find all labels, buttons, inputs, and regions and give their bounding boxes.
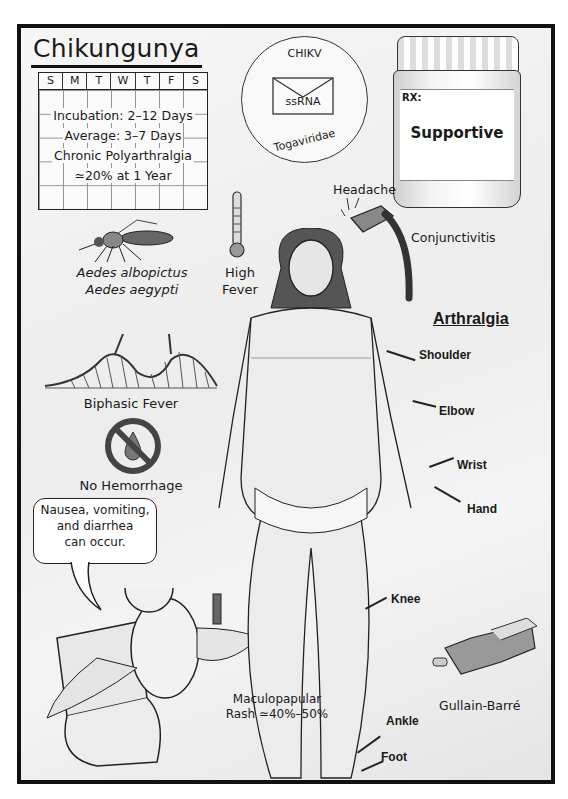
jar-body: RX: Supportive [393, 70, 521, 208]
weekday: S [184, 73, 207, 89]
joint-ankle: Ankle [386, 714, 419, 728]
calendar-facts: Incubation: 2–12 Days Average: 3–7 Days … [39, 106, 207, 186]
virus-family: Togaviridae [242, 119, 366, 162]
page-title: Chikungunya [31, 34, 202, 68]
chronic-text: Chronic Polyarthralgia [52, 148, 194, 163]
virus-name: CHIKV [242, 47, 367, 60]
biphasic-fever-icon [41, 334, 221, 394]
jar-label: RX: Supportive [400, 89, 514, 181]
headache-label: Headache [333, 182, 396, 197]
virus-circle: CHIKV ssRNA Togaviridae [241, 36, 368, 163]
average-text: Average: 3–7 Days [63, 128, 184, 143]
weekday: M [63, 73, 87, 89]
rash-label: Maculopapular Rash ≃40%–50% [217, 692, 337, 722]
calendar-weekdays: S M T W T F S [39, 73, 207, 90]
weekday: W [111, 73, 135, 89]
joint-wrist: Wrist [457, 458, 487, 472]
jar-lid [397, 36, 519, 74]
gi-speech-bubble: Nausea, vomiting, and diarrhea can occur… [33, 498, 157, 564]
biphasic-fever-label: Biphasic Fever [71, 396, 191, 411]
medicine-jar: RX: Supportive [393, 36, 521, 206]
vector-species: Aedes albopictus Aedes aegypti [67, 264, 197, 298]
hand-leader [434, 486, 461, 502]
joint-foot: Foot [381, 750, 407, 764]
incubation-calendar: S M T W T F S Incubation: 2–12 Days Aver… [38, 72, 208, 210]
joint-hand: Hand [467, 502, 497, 516]
wrist-leader [429, 457, 454, 467]
treatment-label: Supportive [400, 124, 514, 142]
joint-knee: Knee [391, 592, 420, 606]
no-hemorrhage-label: No Hemorrhage [61, 478, 201, 493]
demyelinated-nerve-icon [431, 618, 541, 688]
weekday: F [160, 73, 184, 89]
rx-label: RX: [402, 92, 421, 103]
illustration-frame: Chikungunya S M T W T F S Incubation: 2–… [17, 24, 555, 784]
arthralgia-heading: Arthralgia [433, 310, 509, 328]
gbs-label: Gullain-Barré [439, 698, 520, 713]
weekday: T [87, 73, 111, 89]
chronic-rate-text: ≃20% at 1 Year [72, 168, 173, 183]
no-blood-icon [103, 416, 163, 476]
genome-type: ssRNA [272, 95, 334, 108]
weekday: T [136, 73, 160, 89]
weekday: S [39, 73, 63, 89]
conjunctivitis-label: Conjunctivitis [411, 230, 496, 245]
joint-shoulder: Shoulder [419, 348, 471, 362]
incubation-text: Incubation: 2–12 Days [51, 108, 194, 123]
joint-elbow: Elbow [439, 404, 474, 418]
mosquito-icon [77, 218, 187, 264]
